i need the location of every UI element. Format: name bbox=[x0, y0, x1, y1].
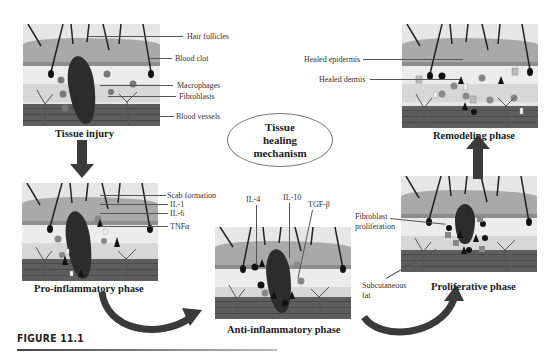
leader-line bbox=[289, 203, 290, 258]
leader-line bbox=[100, 85, 173, 86]
skin-illustration-injury bbox=[23, 24, 160, 126]
label-il-6: IL-6 bbox=[170, 209, 184, 218]
skin-illustration-anti-inflammatory bbox=[215, 227, 351, 319]
label-tgf-beta: TGF-β bbox=[308, 200, 330, 209]
panel-title: Anti-inflammatory phase bbox=[227, 324, 340, 335]
panel-title: Tissue injury bbox=[55, 128, 114, 139]
hair-follicles-icon bbox=[402, 24, 538, 128]
caption-rule bbox=[17, 349, 277, 351]
label-scab-formation: Scab formation bbox=[167, 191, 216, 200]
leader-line bbox=[150, 58, 172, 59]
label-il-10: IL-10 bbox=[283, 193, 301, 202]
leader-line bbox=[160, 116, 174, 117]
label-healed-epidermis: Healed epidermis bbox=[304, 55, 360, 64]
label-il-1: IL-1 bbox=[170, 200, 184, 209]
label-fibroblasts: Fibroblasts bbox=[179, 92, 215, 101]
leader-line bbox=[88, 36, 183, 37]
leader-line bbox=[100, 204, 168, 205]
label-tnf-alpha: TNFα bbox=[170, 222, 189, 231]
label-blood-vessels: Blood vessels bbox=[176, 112, 220, 121]
figure-caption: FIGURE 11.1 bbox=[17, 333, 84, 344]
leader-line bbox=[108, 96, 176, 97]
label-healed-dermis: Healed dermis bbox=[319, 75, 365, 84]
hair-follicles-icon bbox=[23, 24, 160, 126]
skin-illustration-pro-inflammatory bbox=[22, 183, 158, 281]
leader-line bbox=[100, 213, 168, 214]
curved-arrow-icon bbox=[360, 285, 470, 340]
label-subcutaneous: Subcutaneous bbox=[362, 281, 406, 290]
center-title-line-1: Tissue bbox=[253, 121, 306, 134]
label-macrophages: Macrophages bbox=[177, 81, 220, 90]
leader-line bbox=[100, 226, 168, 227]
hair-follicles-icon bbox=[22, 183, 158, 281]
leader-line bbox=[363, 59, 463, 60]
arrow-up-icon bbox=[466, 135, 490, 179]
label-proliferation: proliferation bbox=[355, 222, 395, 231]
label-blood-clot: Blood clot bbox=[175, 54, 209, 63]
label-fat: fat bbox=[362, 291, 370, 300]
skin-illustration-remodeling bbox=[402, 24, 538, 128]
leader-line bbox=[100, 195, 166, 196]
curved-arrow-icon bbox=[98, 290, 208, 340]
center-title-line-3: mechanism bbox=[253, 147, 306, 160]
arrow-down-icon bbox=[70, 140, 94, 180]
label-fibroblast: Fibroblast bbox=[355, 212, 387, 221]
label-il-4: IL-4 bbox=[246, 195, 260, 204]
center-title-line-2: healing bbox=[253, 134, 306, 147]
panel-title: Proliferative phase bbox=[431, 281, 516, 292]
leader-line bbox=[256, 205, 257, 265]
center-title-oval: Tissue healing mechanism bbox=[227, 113, 333, 167]
label-hair-follicles: Hair follicles bbox=[187, 32, 229, 41]
leader-line bbox=[370, 79, 460, 80]
hair-follicles-icon bbox=[215, 227, 351, 319]
panel-title: Remodeling phase bbox=[433, 130, 515, 141]
